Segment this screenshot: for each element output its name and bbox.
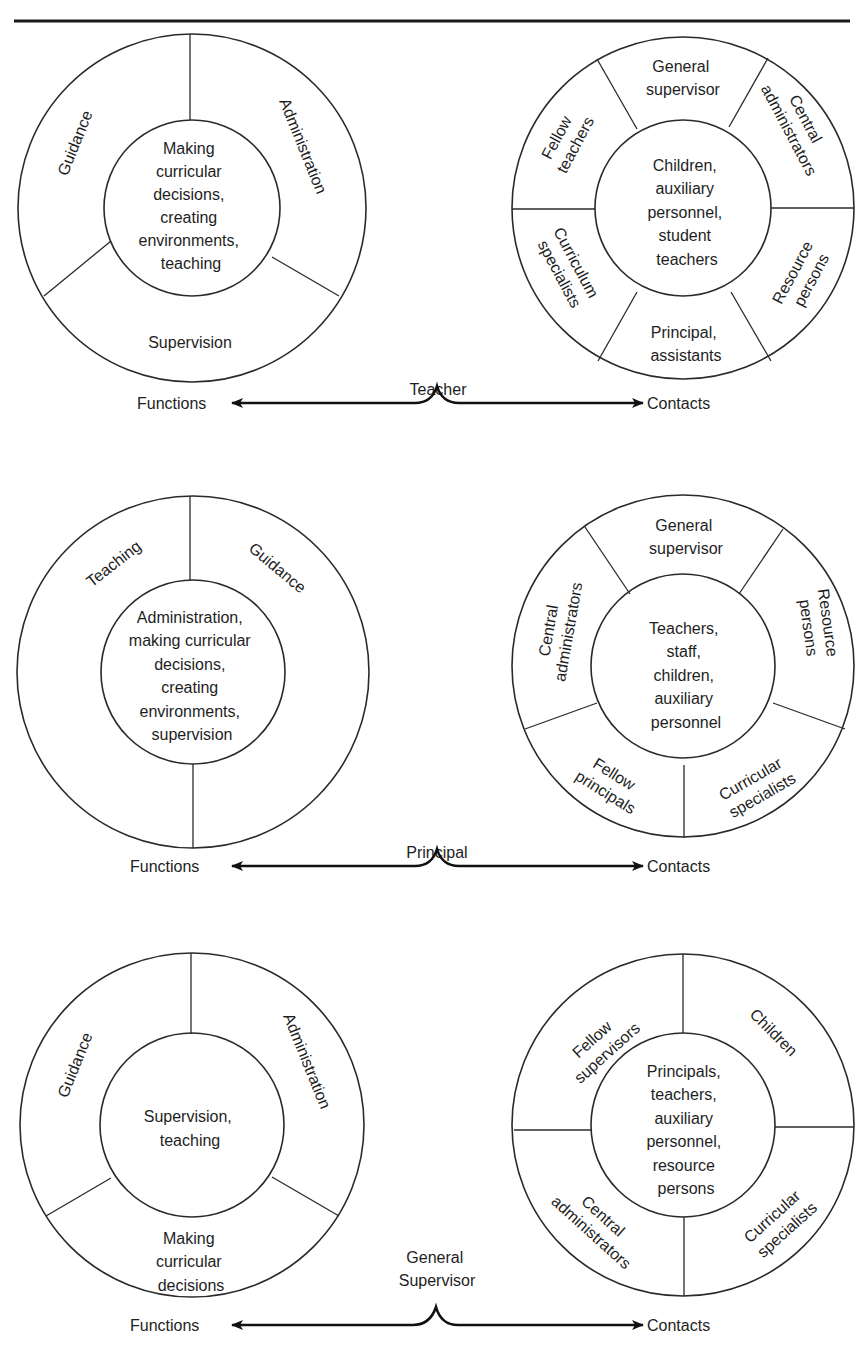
segment-curriculum-specialists: Curriculum specialists [533,224,604,314]
segment-administration: Administration [280,1011,334,1111]
segment-fellow-teachers: Fellow teachers [536,104,597,176]
center-line: supervision [152,726,233,743]
divider [44,241,111,296]
center-text: Teachers, staff, children, auxiliary per… [649,620,723,731]
segment-resource-persons: Resource persons [795,588,842,665]
divider [597,59,637,129]
segment-line: decisions [158,1277,225,1294]
teacher-functions-wheel: Making curricular decisions, creating en… [18,34,366,382]
segment-supervision: Supervision [148,334,232,351]
role-diagrams-figure: Making curricular decisions, creating en… [0,0,860,1356]
center-line: teachers, [651,1086,717,1103]
contacts-label: Contacts [647,395,710,412]
center-line: curricular [156,163,222,180]
center-line: Children, [653,157,717,174]
double-arrow-brace [232,1307,643,1325]
segment-teaching: Teaching [83,537,144,590]
center-line: Making [163,140,215,157]
segment-guidance: Guidance [54,1030,95,1100]
segment-guidance: Guidance [246,539,309,596]
role-line: Supervisor [399,1272,476,1289]
teacher-connector: Teacher Functions Contacts [137,381,710,412]
center-line: Teachers, [649,620,718,637]
role-line: General [406,1249,463,1266]
divider [598,292,637,361]
center-text: Children, auxiliary personnel, student t… [647,157,726,268]
teacher-diagram: Making curricular decisions, creating en… [18,34,854,412]
segment-curricular-specialists: Curricular specialists [716,752,798,821]
center-text: Making curricular decisions, creating en… [139,140,244,272]
segment-general-supervisor: General supervisor [649,517,723,557]
segment-central-administrators: Central administrators [532,577,586,682]
divider [46,1178,111,1216]
divider [585,527,630,594]
segment-line: Making [163,1230,215,1247]
role-label-general-supervisor: General Supervisor [399,1249,476,1289]
divider [525,703,597,729]
center-line: resource [653,1157,715,1174]
segment-line: supervisor [646,81,720,98]
center-line: children, [654,667,714,684]
contacts-label: Contacts [647,858,710,875]
segment-resource-persons: Resource persons [769,234,836,316]
inner-ring [100,1033,284,1217]
divider [272,1177,339,1216]
center-line: staff, [667,643,701,660]
principal-connector: Principal Functions Contacts [130,844,710,875]
principal-contacts-wheel: Teachers, staff, children, auxiliary per… [512,495,854,838]
divider [272,257,339,296]
center-line: auxiliary [655,180,714,197]
principal-diagram: Administration, making curricular decisi… [17,495,854,875]
divider [773,703,845,729]
center-line: Supervision, [144,1108,232,1125]
general-supervisor-diagram: Supervision, teaching Guidance Administr… [20,953,854,1334]
center-line: environments, [139,232,240,249]
center-line: teaching [160,1132,221,1149]
center-line: personnel [651,714,721,731]
divider [731,292,771,361]
segment-children: Children [747,1005,801,1059]
segment-central-administrators: Central administrators [548,1178,647,1273]
segment-line: Children [747,1005,801,1059]
center-line: teachers [656,251,717,268]
functions-label: Functions [130,858,199,875]
center-line: decisions, [154,656,225,673]
segment-general-supervisor: General supervisor [646,58,720,98]
segment-line: General [652,58,709,75]
outer-ring [18,34,366,382]
center-line: student [659,227,712,244]
center-line: making curricular [129,632,251,649]
center-text: Principals, teachers, auxiliary personne… [646,1063,725,1197]
center-line: personnel, [646,1133,721,1150]
center-line: auxiliary [654,1110,713,1127]
segment-line: persons [796,598,821,657]
general-supervisor-functions-wheel: Supervision, teaching Guidance Administr… [20,953,364,1297]
center-line: decisions, [153,186,224,203]
center-line: Administration, [137,609,243,626]
functions-label: Functions [137,395,206,412]
teacher-contacts-wheel: Children, auxiliary personnel, student t… [512,37,854,379]
segment-administration: Administration [276,96,330,196]
contacts-label: Contacts [647,1317,710,1334]
segment-line: supervisor [649,540,723,557]
divider [739,529,783,594]
segment-fellow-supervisors: Fellow supervisors [558,1004,644,1086]
center-text: Supervision, teaching [144,1108,237,1149]
segment-line: General [655,517,712,534]
center-line: personnel, [647,204,722,221]
center-line: Principals, [647,1063,721,1080]
center-line: teaching [161,255,222,272]
center-text: Administration, making curricular decisi… [129,609,255,743]
functions-label: Functions [130,1317,199,1334]
general-supervisor-contacts-wheel: Principals, teachers, auxiliary personne… [512,954,854,1296]
center-line: auxiliary [654,690,713,707]
segment-principal-assistants: Principal, assistants [650,324,721,364]
center-line: persons [658,1180,715,1197]
segment-curricular-specialists: Curricular specialists [741,1184,821,1261]
segment-line: curricular [156,1253,222,1270]
segment-making-curricular-decisions: Making curricular decisions [156,1230,226,1294]
center-line: creating [161,679,218,696]
segment-central-administrators: Central administrators [758,72,838,178]
segment-fellow-principals: Fellow principals [572,750,649,817]
segment-line: Principal, [651,324,717,341]
